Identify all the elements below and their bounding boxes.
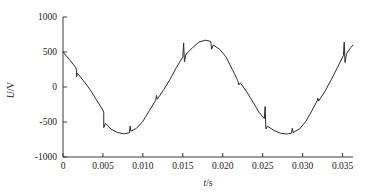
x-tick-label: 0.030 xyxy=(292,161,314,171)
y-tick-label: -500 xyxy=(40,117,58,127)
x-axis-ticks xyxy=(63,153,343,157)
y-tick-label: -1000 xyxy=(35,152,57,162)
x-axis-title: t/s xyxy=(204,178,213,188)
x-axis-tick-labels: 00.0050.0100.0150.0200.0250.0300.035 xyxy=(61,161,354,171)
x-tick-label: 0.010 xyxy=(132,161,154,171)
y-axis-ticks xyxy=(63,17,67,157)
x-tick-label: 0.025 xyxy=(252,161,274,171)
y-tick-label: 500 xyxy=(43,47,58,57)
y-axis-tick-labels: -1000-50005001000 xyxy=(35,12,57,162)
y-axis-title: U/V xyxy=(6,82,16,99)
waveform-line xyxy=(63,40,353,134)
y-tick-label: 1000 xyxy=(38,12,57,22)
x-tick-label: 0 xyxy=(61,161,66,171)
voltage-waveform-chart: -1000-50005001000 00.0050.0100.0150.0200… xyxy=(0,0,366,192)
x-tick-label: 0.020 xyxy=(212,161,234,171)
chart-canvas: -1000-50005001000 00.0050.0100.0150.0200… xyxy=(0,0,366,192)
x-tick-label: 0.005 xyxy=(92,161,114,171)
y-tick-label: 0 xyxy=(52,82,57,92)
x-tick-label: 0.015 xyxy=(172,161,194,171)
x-tick-label: 0.035 xyxy=(332,161,354,171)
